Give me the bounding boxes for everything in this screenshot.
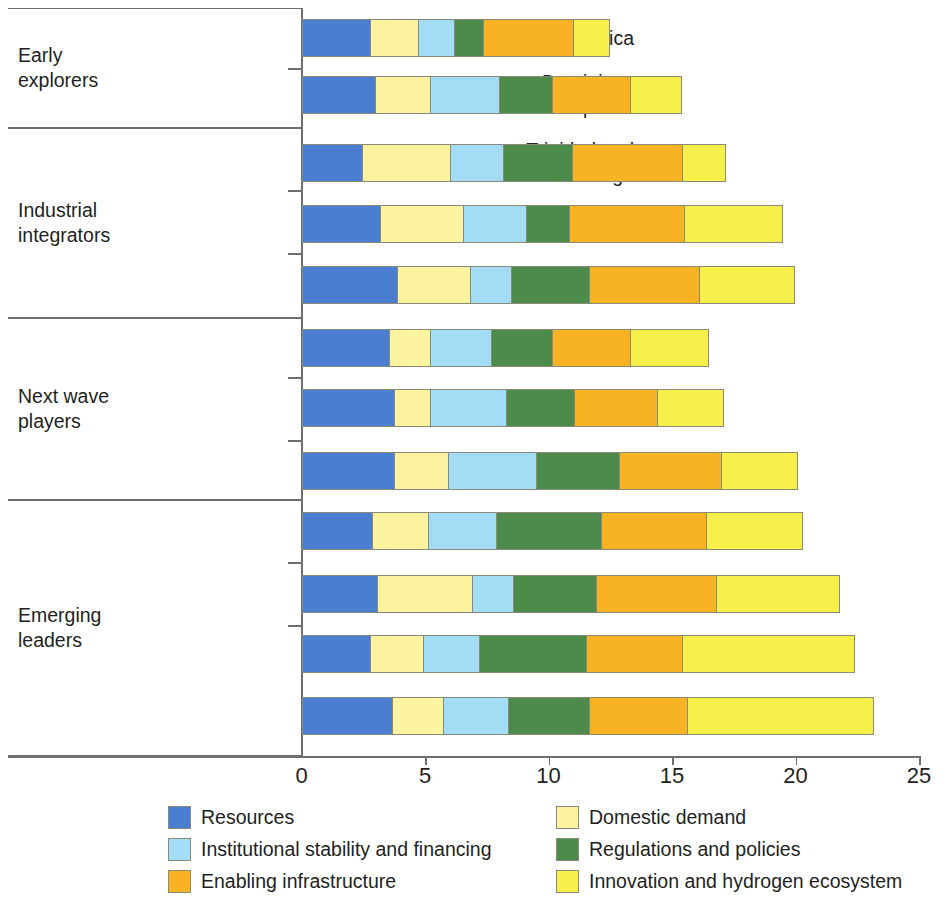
row-tick (288, 190, 301, 192)
bar-segment (375, 76, 432, 114)
bar-row (302, 329, 714, 367)
bar-segment (302, 389, 396, 427)
legend-swatch-icon (168, 870, 191, 893)
bar-segment (503, 144, 572, 182)
legend-swatch-icon (556, 838, 579, 861)
bar-segment (463, 205, 527, 243)
bar-segment (657, 389, 724, 427)
bar-segment (472, 575, 514, 613)
legend-label: Innovation and hydrogen ecosystem (589, 870, 902, 893)
stacked-bar-chart: Early explorersIndustrial integratorsNex… (0, 0, 946, 898)
bar-segment (454, 19, 484, 57)
bar-segment (586, 635, 682, 673)
bar-segment (684, 205, 783, 243)
bar-segment (372, 512, 429, 550)
bar-segment (377, 575, 473, 613)
bar-segment (479, 635, 588, 673)
legend-label: Enabling infrastructure (201, 870, 396, 893)
row-tick (288, 377, 301, 379)
legend-label: Domestic demand (589, 806, 746, 829)
bar-segment (443, 697, 510, 735)
bar-segment (536, 452, 620, 490)
row-tick (288, 253, 301, 255)
bar-segment (448, 452, 537, 490)
bar-segment (430, 389, 507, 427)
x-tick-label: 5 (419, 763, 431, 789)
x-tick-label: 15 (660, 763, 684, 789)
bar-segment (619, 452, 723, 490)
bar-segment (552, 76, 631, 114)
bar-segment (721, 452, 798, 490)
bar-segment (552, 329, 631, 367)
plot-area: Early explorersIndustrial integratorsNex… (0, 0, 946, 760)
bar-segment (392, 697, 444, 735)
bar-row (302, 205, 789, 243)
x-tick-label: 0 (295, 763, 307, 789)
bar-segment (302, 697, 393, 735)
bar-row (302, 266, 801, 304)
bar-segment (508, 697, 590, 735)
group-label: Emerging leaders (18, 603, 168, 653)
legend-swatch-icon (556, 806, 579, 829)
legend-item[interactable]: Institutional stability and financing (168, 838, 492, 861)
bar-segment (506, 389, 575, 427)
bar-segment (526, 205, 570, 243)
legend-item[interactable]: Domestic demand (556, 806, 746, 829)
row-tick (288, 440, 301, 442)
bar-segment (706, 512, 802, 550)
bar-segment (573, 19, 610, 57)
bar-segment (630, 76, 682, 114)
legend-item[interactable]: Enabling infrastructure (168, 870, 396, 893)
bar-segment (601, 512, 707, 550)
bar-segment (716, 575, 840, 613)
row-tick (288, 68, 301, 70)
bar-row (302, 76, 687, 114)
bar-segment (302, 19, 371, 57)
bar-segment (513, 575, 597, 613)
bar-segment (569, 205, 685, 243)
bar-segment (589, 266, 700, 304)
legend-swatch-icon (556, 870, 579, 893)
bar-segment (430, 76, 499, 114)
bar-segment (428, 512, 497, 550)
bar-segment (302, 635, 371, 673)
bar-segment (483, 19, 574, 57)
bar-segment (302, 144, 364, 182)
bar-segment (302, 205, 381, 243)
group-label: Industrial integrators (18, 198, 168, 248)
bar-segment (394, 452, 448, 490)
bar-segment (430, 329, 492, 367)
legend-label: Regulations and policies (589, 838, 800, 861)
bar-segment (470, 266, 512, 304)
bar-segment (302, 512, 374, 550)
bar-segment (699, 266, 795, 304)
bar-row (302, 635, 860, 673)
bar-segment (499, 76, 553, 114)
bar-segment (572, 144, 683, 182)
legend-swatch-icon (168, 806, 191, 829)
bar-segment (682, 144, 726, 182)
row-tick (288, 562, 301, 564)
bar-segment (302, 575, 379, 613)
legend-swatch-icon (168, 838, 191, 861)
legend-label: Institutional stability and financing (201, 838, 492, 861)
bar-segment (397, 266, 471, 304)
x-tick-label: 25 (907, 763, 931, 789)
legend-item[interactable]: Regulations and policies (556, 838, 800, 861)
x-tick-label: 20 (783, 763, 807, 789)
bar-segment (596, 575, 717, 613)
x-tick-mark (302, 747, 304, 757)
bar-segment (380, 205, 464, 243)
bar-segment (574, 389, 658, 427)
bar-row (302, 512, 808, 550)
legend-item[interactable]: Innovation and hydrogen ecosystem (556, 870, 902, 893)
x-axis-line (8, 756, 920, 758)
bar-row (302, 389, 729, 427)
bar-segment (491, 329, 553, 367)
bar-segment (394, 389, 431, 427)
legend-label: Resources (201, 806, 294, 829)
bar-segment (496, 512, 602, 550)
bar-segment (362, 144, 451, 182)
legend-item[interactable]: Resources (168, 806, 294, 829)
chart-legend: ResourcesInstitutional stability and fin… (0, 800, 946, 898)
